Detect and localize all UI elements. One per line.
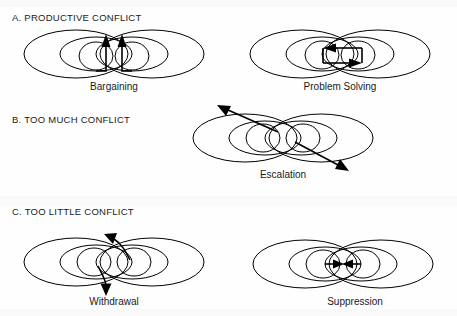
caption-suppression: Suppression [327,296,383,307]
withdrawal-down-arrow-head [101,284,112,297]
caption-bargaining: Bargaining [90,81,138,92]
withdrawal-right-inner-circle [117,248,151,276]
section-heading-a: A. PRODUCTIVE CONFLICT [12,12,142,23]
escalation-left-inner-circle [246,124,280,152]
section-heading-c: C. TOO LITTLE CONFLICT [12,206,134,217]
problem-solving-left-outer-ellipse [250,30,354,78]
withdrawal-left-inner-circle [77,248,111,276]
caption-problem-solving: Problem Solving [304,81,377,92]
figure-suppression [243,236,443,292]
cropped-header-text [0,0,457,4]
escalation-left-outer-ellipse [193,114,297,162]
figure-withdrawal [14,230,214,296]
figure-problem-solving [240,26,440,82]
caption-withdrawal: Withdrawal [89,296,138,307]
scan-artifact-mid [0,196,457,206]
withdrawal-left-outer-ellipse [24,238,128,286]
escalation-right-outer-ellipse [269,114,373,162]
withdrawal-right-outer-ellipse [100,238,204,286]
escalation-right-inner-circle [286,124,320,152]
caption-escalation: Escalation [260,169,306,180]
suppression-right-arrow-head [342,260,353,269]
section-heading-b: B. TOO MUCH CONFLICT [12,114,130,125]
figure-bargaining [14,26,214,82]
problem-solving-right-outer-ellipse [326,30,430,78]
diagram-page: A. PRODUCTIVE CONFLICT Bargaining [0,0,457,316]
scan-artifact-bottom [0,309,457,316]
figure-escalation [183,104,383,166]
